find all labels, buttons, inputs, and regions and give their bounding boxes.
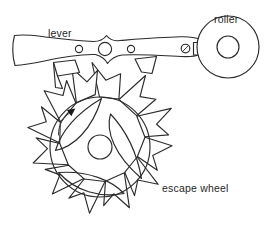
label-escape-wheel: escape wheel xyxy=(162,182,229,194)
escape-wheel-hub xyxy=(88,135,112,159)
roller xyxy=(197,16,259,78)
lever-hole-left xyxy=(75,45,82,52)
label-lever: lever xyxy=(48,27,72,39)
lever-pivot-hole xyxy=(98,42,111,55)
escapement-drawing: lever roller escape wheel xyxy=(0,0,279,244)
roller-center-hole xyxy=(217,36,239,58)
guard-pin-icon xyxy=(181,44,190,53)
lever-hole-right xyxy=(127,45,134,52)
escapement-diagram: lever roller escape wheel xyxy=(0,0,279,244)
label-roller: roller xyxy=(214,13,239,25)
